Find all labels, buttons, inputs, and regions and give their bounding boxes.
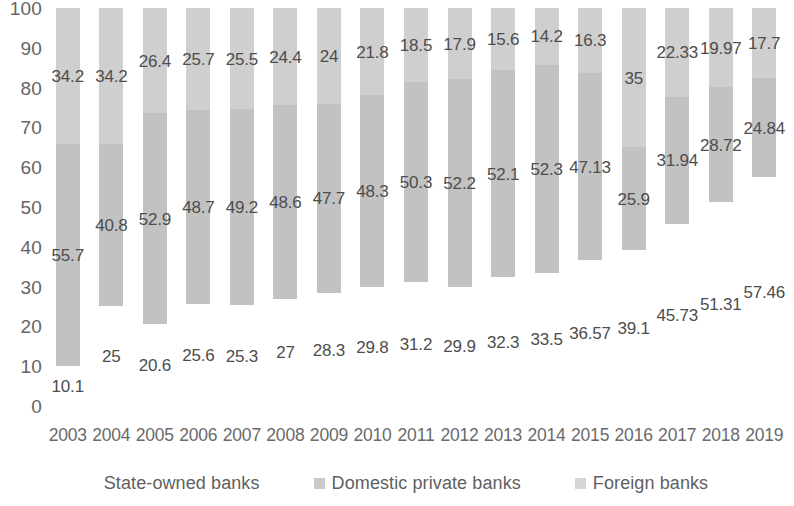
x-axis-tick-label: 2003 bbox=[49, 424, 87, 446]
data-label: 34.2 bbox=[95, 68, 127, 85]
data-label: 57.46 bbox=[743, 283, 785, 300]
data-label: 15.6 bbox=[487, 31, 519, 48]
data-label: 25.3 bbox=[226, 347, 258, 364]
legend-item[interactable]: Domestic private banks bbox=[314, 473, 521, 493]
data-label: 36.57 bbox=[569, 325, 611, 342]
legend-swatch-icon bbox=[575, 478, 586, 489]
data-label: 10.1 bbox=[52, 377, 84, 394]
y-axis-tick-label: 100 bbox=[10, 0, 42, 18]
data-label: 31.2 bbox=[400, 335, 432, 352]
data-label: 25.7 bbox=[182, 51, 214, 68]
legend-label: Foreign banks bbox=[593, 473, 708, 493]
data-label: 32.3 bbox=[487, 333, 519, 350]
x-axis-tick-label: 2006 bbox=[179, 424, 217, 446]
data-label: 52.1 bbox=[487, 165, 519, 182]
data-label: 55.7 bbox=[52, 246, 84, 263]
x-axis-tick-label: 2008 bbox=[266, 424, 304, 446]
data-label: 28.72 bbox=[700, 136, 742, 153]
bar-group[interactable] bbox=[752, 8, 776, 406]
data-label: 19.97 bbox=[700, 39, 742, 56]
data-label: 17.7 bbox=[748, 35, 780, 52]
y-axis-tick-label: 80 bbox=[20, 78, 42, 97]
chart-legend: State-owned banksDomestic private banksF… bbox=[0, 466, 794, 500]
x-axis-tick-label: 2013 bbox=[484, 424, 522, 446]
x-axis-tick-label: 2005 bbox=[136, 424, 174, 446]
data-label: 52.9 bbox=[139, 210, 171, 227]
x-axis-tick-label: 2012 bbox=[440, 424, 478, 446]
data-label: 48.6 bbox=[269, 193, 301, 210]
x-axis: 2003200420052006200720082009201020112012… bbox=[46, 424, 786, 450]
plot-area: 10.155.734.22540.834.220.652.926.425.648… bbox=[46, 8, 786, 406]
data-label: 25.9 bbox=[617, 190, 649, 207]
data-label: 29.8 bbox=[356, 338, 388, 355]
x-axis-tick-label: 2011 bbox=[398, 424, 435, 446]
legend-swatch-icon bbox=[314, 478, 325, 489]
data-label: 25.5 bbox=[226, 50, 258, 67]
stacked-bar-chart: 0102030405060708090100 10.155.734.22540.… bbox=[0, 0, 794, 506]
x-axis-tick-label: 2010 bbox=[353, 424, 391, 446]
data-label: 14.2 bbox=[530, 28, 562, 45]
data-label: 52.3 bbox=[530, 160, 562, 177]
bar-group[interactable] bbox=[665, 8, 689, 406]
data-label: 24.4 bbox=[269, 48, 301, 65]
bar-group[interactable] bbox=[578, 8, 602, 406]
data-label: 45.73 bbox=[656, 306, 698, 323]
data-label: 52.2 bbox=[443, 175, 475, 192]
y-axis-tick-label: 0 bbox=[31, 397, 42, 416]
data-label: 22.33 bbox=[656, 44, 698, 61]
data-label: 24 bbox=[320, 47, 339, 64]
data-label: 50.3 bbox=[400, 173, 432, 190]
data-label: 47.13 bbox=[569, 158, 611, 175]
y-axis-tick-label: 10 bbox=[20, 357, 42, 376]
data-label: 48.3 bbox=[356, 183, 388, 200]
y-axis-tick-label: 30 bbox=[20, 277, 42, 296]
data-label: 26.4 bbox=[139, 52, 171, 69]
x-axis-tick-label: 2009 bbox=[310, 424, 348, 446]
data-label: 28.3 bbox=[313, 341, 345, 358]
legend-label: Domestic private banks bbox=[332, 473, 521, 493]
data-label: 47.7 bbox=[313, 190, 345, 207]
data-label: 25.6 bbox=[182, 347, 214, 364]
data-label: 34.2 bbox=[52, 68, 84, 85]
y-axis-tick-label: 40 bbox=[20, 237, 42, 256]
legend-item[interactable]: Foreign banks bbox=[575, 473, 708, 493]
data-label: 31.94 bbox=[656, 152, 698, 169]
y-axis-tick-label: 50 bbox=[20, 198, 42, 217]
data-label: 35 bbox=[624, 69, 643, 86]
x-axis-tick-label: 2016 bbox=[615, 424, 653, 446]
data-label: 16.3 bbox=[574, 32, 606, 49]
data-label: 40.8 bbox=[95, 217, 127, 234]
data-label: 18.5 bbox=[400, 36, 432, 53]
data-label: 39.1 bbox=[617, 320, 649, 337]
data-label: 48.7 bbox=[182, 199, 214, 216]
y-axis-tick-label: 60 bbox=[20, 158, 42, 177]
x-axis-tick-label: 2015 bbox=[571, 424, 609, 446]
data-label: 25 bbox=[102, 348, 121, 365]
legend-swatch-icon bbox=[86, 478, 97, 489]
y-axis-tick-label: 20 bbox=[20, 317, 42, 336]
data-label: 21.8 bbox=[356, 43, 388, 60]
x-axis-tick-label: 2019 bbox=[745, 424, 783, 446]
x-axis-tick-label: 2004 bbox=[92, 424, 130, 446]
data-label: 27 bbox=[276, 344, 295, 361]
x-axis-tick-label: 2018 bbox=[702, 424, 740, 446]
data-label: 51.31 bbox=[700, 295, 742, 312]
data-label: 33.5 bbox=[530, 331, 562, 348]
x-axis-tick-label: 2017 bbox=[658, 424, 696, 446]
data-label: 49.2 bbox=[226, 199, 258, 216]
y-axis: 0102030405060708090100 bbox=[0, 8, 42, 406]
legend-item[interactable]: State-owned banks bbox=[86, 473, 260, 493]
x-axis-tick-label: 2014 bbox=[528, 424, 566, 446]
y-axis-tick-label: 90 bbox=[20, 38, 42, 57]
bar-group[interactable] bbox=[709, 8, 733, 406]
data-label: 24.84 bbox=[743, 119, 785, 136]
data-label: 17.9 bbox=[443, 35, 475, 52]
x-axis-tick-label: 2007 bbox=[223, 424, 261, 446]
legend-label: State-owned banks bbox=[104, 473, 260, 493]
data-label: 20.6 bbox=[139, 357, 171, 374]
y-axis-tick-label: 70 bbox=[20, 118, 42, 137]
data-label: 29.9 bbox=[443, 338, 475, 355]
